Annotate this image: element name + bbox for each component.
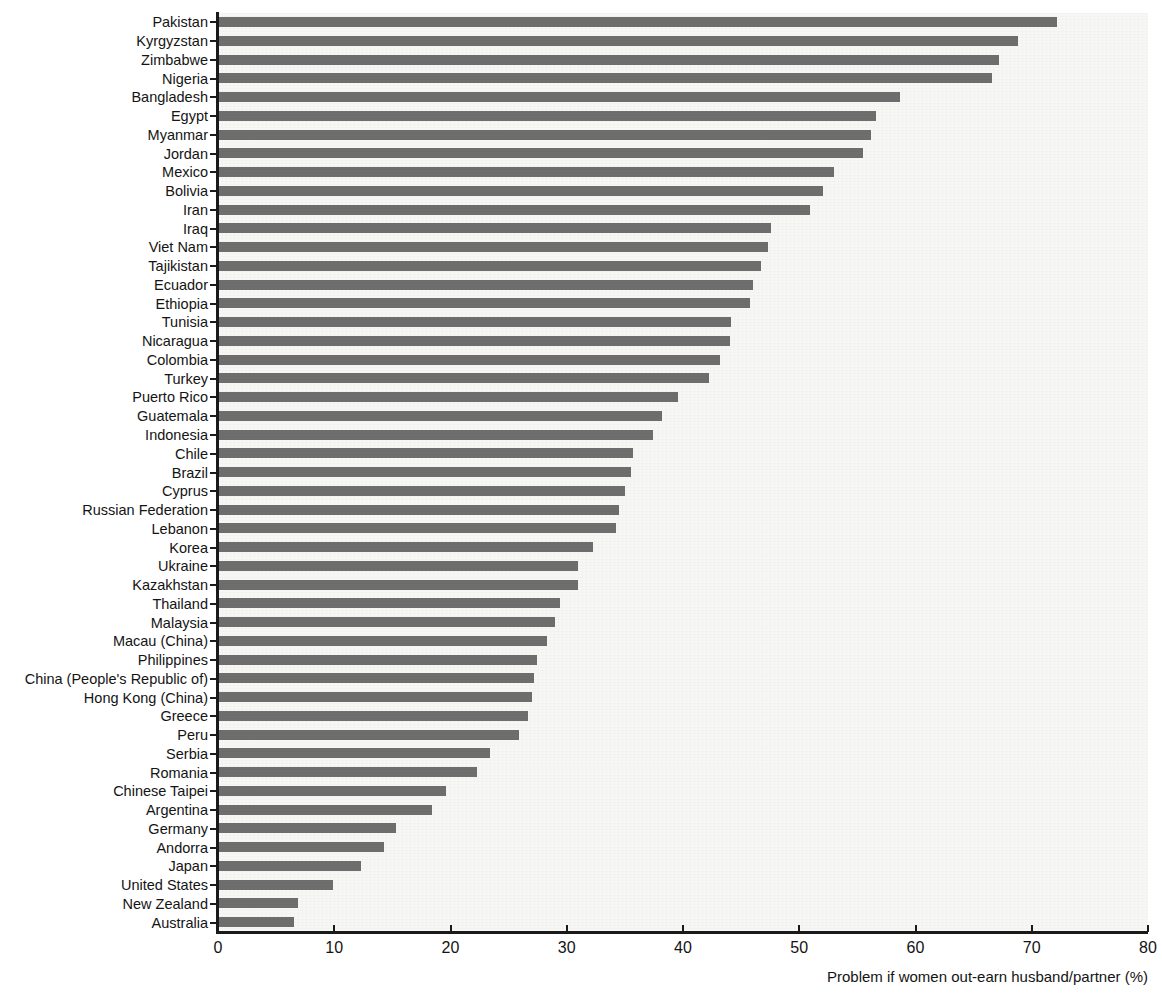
- y-axis-tick: [210, 697, 218, 699]
- y-axis-label: Myanmar: [0, 127, 208, 143]
- y-axis-tick: [210, 171, 218, 173]
- bar-row: [218, 688, 1148, 708]
- y-axis-label: Germany: [0, 821, 208, 837]
- bar: [218, 242, 768, 252]
- bar: [218, 55, 999, 65]
- y-axis-label: Russian Federation: [0, 502, 208, 518]
- y-axis-tick: [210, 678, 218, 680]
- bar: [218, 880, 333, 890]
- y-axis-tick: [210, 59, 218, 61]
- y-axis-label: Guatemala: [0, 408, 208, 424]
- y-axis-tick: [210, 434, 218, 436]
- y-axis-tick: [210, 547, 218, 549]
- bar-row: [218, 126, 1148, 146]
- y-axis-label: Japan: [0, 858, 208, 874]
- bar-row: [218, 501, 1148, 521]
- y-axis-tick: [210, 40, 218, 42]
- bar-row: [218, 313, 1148, 333]
- y-axis-label: Bolivia: [0, 183, 208, 199]
- bar-row: [218, 13, 1148, 33]
- y-axis-label: Egypt: [0, 108, 208, 124]
- bar: [218, 730, 519, 740]
- bar-row: [218, 463, 1148, 483]
- bar-row: [218, 744, 1148, 764]
- y-axis-label: Jordan: [0, 146, 208, 162]
- bar: [218, 542, 593, 552]
- bar-row: [218, 369, 1148, 389]
- y-axis-label: Ukraine: [0, 558, 208, 574]
- y-axis-label: New Zealand: [0, 896, 208, 912]
- bar-row: [218, 88, 1148, 108]
- x-axis-tick-label: 80: [1139, 938, 1157, 958]
- bar-row: [218, 107, 1148, 127]
- y-axis-label: Serbia: [0, 746, 208, 762]
- y-axis-tick: [210, 115, 218, 117]
- bar: [218, 898, 298, 908]
- bar-row: [218, 201, 1148, 221]
- y-axis-label: Iraq: [0, 221, 208, 237]
- bar-row: [218, 726, 1148, 746]
- x-axis-title: Problem if women out-earn husband/partne…: [827, 968, 1148, 986]
- y-axis-tick: [210, 865, 218, 867]
- y-axis-label: Greece: [0, 708, 208, 724]
- bar-row: [218, 51, 1148, 71]
- bar-row: [218, 613, 1148, 633]
- bar: [218, 842, 384, 852]
- bar: [218, 467, 631, 477]
- bar-row: [218, 801, 1148, 821]
- y-axis-label: Chile: [0, 446, 208, 462]
- y-axis-tick: [210, 603, 218, 605]
- bar: [218, 636, 547, 646]
- y-axis-tick: [210, 321, 218, 323]
- x-axis-tick: [915, 925, 917, 932]
- y-axis-tick: [210, 378, 218, 380]
- bar-chart: PakistanKyrgyzstanZimbabweNigeriaBanglad…: [0, 0, 1162, 993]
- bar: [218, 355, 720, 365]
- y-axis-label: Nigeria: [0, 71, 208, 87]
- y-axis-tick: [210, 396, 218, 398]
- x-axis-tick: [450, 925, 452, 932]
- bar: [218, 280, 753, 290]
- bar: [218, 411, 662, 421]
- bar-row: [218, 276, 1148, 296]
- y-axis-label: Bangladesh: [0, 89, 208, 105]
- bar-row: [218, 632, 1148, 652]
- bar-row: [218, 69, 1148, 89]
- y-axis-label: Tunisia: [0, 314, 208, 330]
- bar-row: [218, 238, 1148, 258]
- bar: [218, 711, 528, 721]
- bar: [218, 748, 490, 758]
- bar: [218, 298, 750, 308]
- bar: [218, 392, 678, 402]
- bar: [218, 486, 625, 496]
- bar-row: [218, 182, 1148, 202]
- y-axis-label: Philippines: [0, 652, 208, 668]
- y-axis-label: Romania: [0, 765, 208, 781]
- y-axis-label: Iran: [0, 202, 208, 218]
- y-axis-label: Cyprus: [0, 483, 208, 499]
- y-axis-tick: [210, 134, 218, 136]
- y-axis-label: Andorra: [0, 840, 208, 856]
- bar: [218, 673, 534, 683]
- bar: [218, 823, 396, 833]
- y-axis-label: Ethiopia: [0, 296, 208, 312]
- bar-row: [218, 557, 1148, 577]
- y-axis-tick: [210, 78, 218, 80]
- bar: [218, 92, 900, 102]
- y-axis-tick: [210, 340, 218, 342]
- y-axis-label: Chinese Taipei: [0, 783, 208, 799]
- y-axis-label: Hong Kong (China): [0, 690, 208, 706]
- y-axis-tick: [210, 772, 218, 774]
- y-axis-label: Argentina: [0, 802, 208, 818]
- y-axis-label: Thailand: [0, 596, 208, 612]
- y-axis-tick: [210, 847, 218, 849]
- y-axis-label: Malaysia: [0, 615, 208, 631]
- bar-row: [218, 669, 1148, 689]
- plot-area: [218, 13, 1148, 932]
- y-axis-tick: [210, 622, 218, 624]
- y-axis-tick: [210, 734, 218, 736]
- bar: [218, 186, 823, 196]
- y-axis-tick: [210, 209, 218, 211]
- x-axis-tick-label: 30: [558, 938, 576, 958]
- bar: [218, 692, 532, 702]
